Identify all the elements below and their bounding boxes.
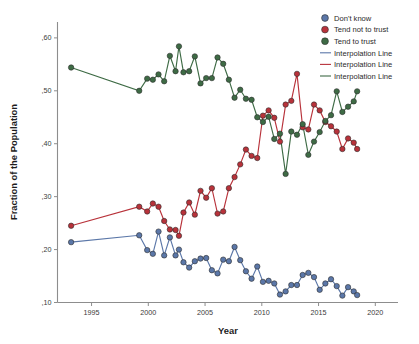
- y-tick-label: ,50: [42, 86, 52, 95]
- data-point: [249, 276, 254, 281]
- data-point: [156, 204, 161, 209]
- data-point: [221, 209, 226, 214]
- data-point: [215, 271, 220, 276]
- data-point: [340, 146, 345, 151]
- data-point: [144, 209, 149, 214]
- data-point: [215, 211, 220, 216]
- x-tick-label: 1995: [84, 308, 100, 317]
- data-point: [260, 113, 265, 118]
- data-point: [198, 256, 203, 261]
- data-point: [68, 239, 73, 244]
- data-point: [334, 129, 339, 134]
- data-point: [277, 292, 282, 297]
- data-point: [283, 102, 288, 107]
- x-tick-label: 2015: [311, 308, 327, 317]
- data-point: [243, 147, 248, 152]
- data-point: [317, 108, 322, 113]
- data-point: [354, 292, 359, 297]
- data-point: [306, 127, 311, 132]
- data-point: [255, 264, 260, 269]
- data-point: [311, 139, 316, 144]
- series-line-don-t-know: [71, 232, 357, 296]
- data-point: [173, 227, 178, 232]
- data-point: [354, 146, 359, 151]
- data-point: [311, 274, 316, 279]
- data-point: [317, 287, 322, 292]
- data-point: [294, 132, 299, 137]
- legend-marker-circle: [322, 15, 329, 22]
- x-tick-label: 2000: [140, 308, 156, 317]
- data-point: [340, 293, 345, 298]
- data-point: [181, 260, 186, 265]
- legend-label: Don't know: [334, 14, 372, 23]
- data-point: [334, 283, 339, 288]
- data-point: [255, 155, 260, 160]
- x-tick-label: 2005: [197, 308, 213, 317]
- legend-label: Tend not to trust: [334, 25, 389, 34]
- series-line-tend-to-trust: [71, 46, 357, 174]
- data-point: [209, 75, 214, 80]
- data-point: [283, 289, 288, 294]
- data-point: [181, 70, 186, 75]
- data-point: [260, 279, 265, 284]
- data-point: [137, 233, 142, 238]
- data-point: [249, 153, 254, 158]
- data-point: [249, 97, 254, 102]
- legend-label: Interpolation Line: [334, 49, 392, 58]
- data-point: [238, 257, 243, 262]
- x-tick-label: 2010: [254, 308, 270, 317]
- data-point: [186, 200, 191, 205]
- data-point: [198, 188, 203, 193]
- data-point: [272, 136, 277, 141]
- data-point: [238, 87, 243, 92]
- data-point: [150, 251, 155, 256]
- data-point: [294, 282, 299, 287]
- data-point: [266, 278, 271, 283]
- data-point: [221, 61, 226, 66]
- y-tick-label: ,60: [42, 33, 52, 42]
- data-point: [340, 109, 345, 114]
- legend-label: Tend to trust: [334, 37, 377, 46]
- data-point: [173, 69, 178, 74]
- data-point: [232, 174, 237, 179]
- data-point: [289, 282, 294, 287]
- data-point: [323, 118, 328, 123]
- data-point: [215, 55, 220, 60]
- data-point: [167, 227, 172, 232]
- data-point: [176, 44, 181, 49]
- data-point: [203, 255, 208, 260]
- x-axis-title: Year: [218, 325, 238, 336]
- legend-marker-circle: [322, 26, 329, 33]
- data-point: [176, 247, 181, 252]
- y-tick-label: ,30: [42, 192, 52, 201]
- data-point: [68, 65, 73, 70]
- data-point: [328, 112, 333, 117]
- data-point: [181, 210, 186, 215]
- line-chart: ,10,20,30,40,50,60 199520002005201020152…: [0, 0, 419, 344]
- legend-label: Interpolation Line: [334, 72, 392, 81]
- data-point: [156, 229, 161, 234]
- data-point: [351, 140, 356, 145]
- data-point: [345, 104, 350, 109]
- data-point: [351, 99, 356, 104]
- data-point: [173, 253, 178, 258]
- data-point: [192, 212, 197, 217]
- data-point: [300, 272, 305, 277]
- data-point: [311, 102, 316, 107]
- data-point: [328, 124, 333, 129]
- data-point: [294, 71, 299, 76]
- data-point: [306, 270, 311, 275]
- data-point: [289, 129, 294, 134]
- data-point: [283, 171, 288, 176]
- chart-container: ,10,20,30,40,50,60 199520002005201020152…: [0, 0, 419, 344]
- data-point: [306, 152, 311, 157]
- data-point: [277, 131, 282, 136]
- data-point: [345, 136, 350, 141]
- data-point: [232, 244, 237, 249]
- data-point: [144, 76, 149, 81]
- data-point: [226, 77, 231, 82]
- data-point: [203, 75, 208, 80]
- data-point: [144, 247, 149, 252]
- data-point: [209, 268, 214, 273]
- data-point: [186, 265, 191, 270]
